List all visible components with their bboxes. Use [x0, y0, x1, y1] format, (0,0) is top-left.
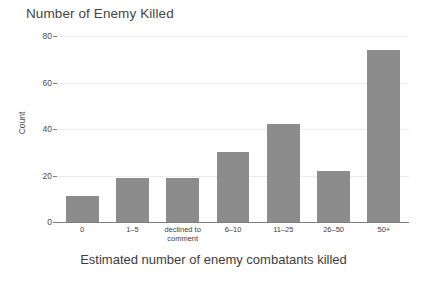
bar — [267, 124, 300, 222]
bar — [317, 171, 350, 222]
x-axis-tick-label: 11–25 — [258, 225, 308, 234]
x-axis-baseline — [57, 222, 409, 223]
bars — [57, 36, 409, 222]
x-axis-tick-label: 0 — [57, 225, 107, 234]
y-axis-tick-label: 40 — [43, 124, 52, 134]
bar — [367, 50, 400, 222]
x-axis-label: Estimated number of enemy combatants kil… — [0, 252, 427, 267]
x-axis-tick-label: 26–50 — [308, 225, 358, 234]
y-axis-tick-label: 60 — [43, 78, 52, 88]
x-axis-tick-label: declined to comment — [158, 225, 208, 243]
bar — [66, 196, 99, 222]
y-axis-tick-label: 80 — [43, 31, 52, 41]
x-axis-tick-labels: 01–5declined to comment6–1011–2526–5050+ — [57, 225, 409, 251]
x-axis-tick-label: 6–10 — [208, 225, 258, 234]
x-axis-tick-label: 50+ — [359, 225, 409, 234]
y-axis-tick-label: 20 — [43, 171, 52, 181]
bar-chart: Number of Enemy Killed Count 020406080 0… — [0, 0, 427, 281]
y-axis-tick-labels: 020406080 — [24, 36, 52, 222]
bar — [217, 152, 250, 222]
plot-area — [57, 36, 409, 222]
bar — [166, 178, 199, 222]
chart-title: Number of Enemy Killed — [26, 6, 174, 21]
y-axis-tick-label: 0 — [47, 217, 52, 227]
x-axis-tick-label: 1–5 — [107, 225, 157, 234]
bar — [116, 178, 149, 222]
